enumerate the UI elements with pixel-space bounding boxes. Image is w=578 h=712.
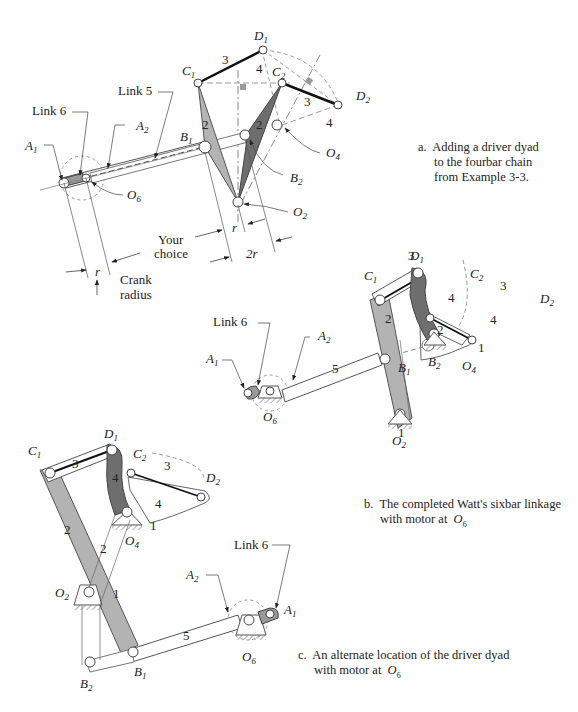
caption-text: with motor at — [314, 663, 381, 677]
label-link-3-secondary: 3 — [164, 458, 171, 473]
label-d2: D2 — [205, 470, 220, 487]
dimension-line — [238, 205, 245, 232]
joint-c2 — [426, 314, 434, 322]
label-a1: A1 — [205, 351, 218, 368]
dimension-arrow — [66, 270, 86, 272]
leader-a2 — [206, 575, 228, 612]
leader-o6 — [92, 182, 123, 195]
joint-d1 — [259, 46, 267, 54]
label-crank-radius: Crank — [120, 272, 152, 287]
dimension-line — [86, 178, 110, 275]
joint-c1 — [375, 295, 385, 305]
link-4-position-2 — [128, 477, 209, 523]
leader-o2 — [244, 204, 288, 212]
label-link-3-secondary: 3 — [500, 278, 507, 293]
ground-hatch — [258, 398, 282, 403]
label-ground-1: 1 — [150, 518, 157, 533]
label-link-5: 5 — [332, 361, 339, 376]
label-link-5: 5 — [183, 628, 190, 643]
leader-a1 — [44, 145, 62, 180]
joint-b1 — [128, 647, 138, 657]
label-o4: O4 — [125, 533, 139, 550]
label-link-6: Link 6 — [32, 103, 67, 118]
pivot-o4 — [272, 120, 282, 130]
leader-a2 — [293, 337, 310, 380]
joint-c1 — [45, 468, 55, 478]
label-ground-1: 1 — [478, 340, 485, 355]
joint-d1 — [413, 268, 423, 278]
joint-c2 — [127, 469, 135, 477]
label-o4: O4 — [326, 145, 340, 162]
label-crank-r: r — [95, 264, 101, 279]
link-3-position-1 — [198, 50, 263, 83]
caption-symbol: O — [454, 512, 463, 526]
caption-text: with motor at — [380, 512, 447, 526]
label-c2: C2 — [133, 446, 147, 463]
label-link-2-pos1: 2 — [202, 117, 209, 132]
joint-b1 — [199, 141, 211, 153]
label-a1: A1 — [283, 602, 296, 619]
pivot-o6 — [244, 615, 254, 625]
label-link-4-pos2: 4 — [326, 115, 333, 130]
label-o2: O2 — [55, 585, 69, 602]
ground-hatch — [236, 635, 266, 640]
caption-symbol: O — [388, 663, 397, 677]
leader-a1 — [222, 360, 244, 388]
joint-b1 — [380, 354, 390, 364]
dimension-arrow — [112, 253, 140, 262]
caption-text: An alternate location of the driver dyad — [312, 648, 509, 662]
dimension-arrow — [248, 219, 265, 224]
d-arc — [152, 453, 204, 480]
label-d1: D1 — [253, 28, 268, 45]
label-r: r — [232, 220, 238, 235]
joint-d2 — [197, 493, 205, 501]
label-link-2-pos2: 2 — [256, 117, 263, 132]
label-link-2: 2 — [64, 522, 71, 537]
panel-a-diagram: Link 6 Link 5 A1 A2 B1 B2 C1 C2 D1 D2 O4… — [24, 28, 370, 302]
label-o4: O4 — [462, 358, 476, 375]
label-c1: C1 — [28, 443, 41, 460]
ground-hatch — [424, 345, 446, 350]
caption-a: a. Adding a driver dyad to the fourbar c… — [418, 140, 539, 185]
leader-a2 — [108, 125, 125, 168]
pivot-o4 — [122, 507, 132, 517]
caption-text: to the fourbar chain — [418, 155, 539, 170]
panel-b-diagram: Link 6 A2 A1 O6 O2 O4 B1 B2 C1 C2 D1 D2 … — [205, 248, 554, 450]
joint-b2 — [240, 130, 250, 140]
dimension-arrow — [195, 230, 222, 237]
label-c1: C1 — [182, 63, 195, 80]
joint-a1 — [266, 610, 274, 618]
joint-a1 — [244, 389, 252, 397]
caption-marker: c. — [298, 648, 307, 662]
leader-link6 — [272, 545, 290, 608]
label-a1: A1 — [24, 138, 37, 155]
label-ground-1: 1 — [113, 586, 120, 601]
label-d1: D1 — [103, 426, 118, 443]
leader-link5 — [155, 92, 173, 158]
label-2r: 2r — [246, 246, 259, 261]
label-ground-1: 1 — [398, 425, 405, 440]
label-link-4-pos1: 4 — [256, 61, 263, 76]
label-link-3-pos2: 3 — [304, 94, 311, 109]
caption-text: The completed Watt's sixbar linkage — [379, 497, 561, 511]
label-c2: C2 — [272, 64, 286, 81]
caption-b: b. The completed Watt's sixbar linkage w… — [364, 497, 561, 532]
pivot-o6 — [266, 387, 274, 395]
label-crank-radius: radius — [120, 287, 152, 302]
linkage-figure: Link 6 Link 5 A1 A2 B1 B2 C1 C2 D1 D2 O4… — [0, 0, 578, 712]
label-o6: O6 — [263, 409, 277, 426]
joint-d1 — [107, 445, 117, 455]
label-link-3-pos1: 3 — [222, 52, 229, 67]
right-angle-mark — [240, 84, 246, 90]
label-o2: O2 — [293, 204, 307, 221]
label-a2: A2 — [317, 328, 331, 345]
axis-line — [40, 145, 215, 190]
label-link-2: 2 — [385, 311, 392, 326]
label-link-6: Link 6 — [234, 537, 269, 552]
joint-d2 — [334, 101, 342, 109]
label-link-4: 4 — [112, 470, 119, 485]
caption-symbol-subscript: 6 — [463, 520, 467, 529]
label-a2: A2 — [135, 118, 149, 135]
label-link-4-secondary: 4 — [490, 312, 497, 327]
link-3-centerline — [50, 450, 112, 473]
